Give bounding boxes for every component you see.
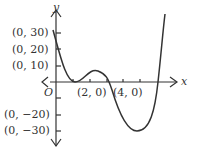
y-label-neg30: (0, −30) bbox=[4, 125, 50, 136]
y-label-30: (0, 30) bbox=[12, 27, 49, 38]
y-label-20: (0, 20) bbox=[12, 44, 49, 55]
x-axis-label: x bbox=[181, 76, 187, 87]
y-label-neg20: (0, −20) bbox=[4, 109, 50, 120]
function-curve bbox=[53, 14, 165, 131]
x-label-4: (4, 0) bbox=[113, 87, 143, 98]
origin-label: O bbox=[44, 87, 53, 98]
y-label-10: (0, 10) bbox=[12, 60, 49, 71]
y-axis-label: y bbox=[53, 2, 59, 13]
x-label-2: (2, 0) bbox=[77, 87, 107, 98]
